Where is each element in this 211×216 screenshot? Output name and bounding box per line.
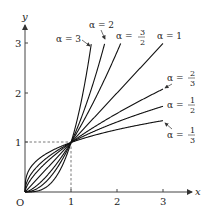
svg-text:α = 1: α = 1	[157, 31, 182, 41]
label-alpha-2-3: α = 2 3	[167, 69, 195, 88]
svg-text:2: 2	[190, 106, 195, 115]
svg-text:3: 3	[190, 79, 195, 88]
svg-text:3: 3	[190, 136, 195, 145]
label-alpha-1-3: α = 1 3	[167, 126, 195, 145]
x-tick-1: 1	[68, 196, 74, 207]
svg-text:1: 1	[190, 126, 195, 135]
y-tick-3: 3	[15, 38, 21, 49]
pointer-alpha-3	[82, 40, 90, 46]
svg-text:α = 2: α = 2	[89, 20, 114, 30]
svg-text:1: 1	[190, 96, 195, 105]
y-axis-label: y	[21, 11, 28, 22]
pointer-alpha-1-3	[165, 123, 172, 129]
label-alpha-2: α = 2	[89, 20, 114, 30]
label-alpha-1-2: α = 1 2	[167, 96, 195, 115]
curve-series-3	[25, 44, 163, 193]
svg-text:3: 3	[140, 28, 145, 37]
svg-text:α =: α =	[167, 73, 183, 83]
x-axis-label: x	[195, 186, 201, 197]
curve-series-1	[25, 44, 105, 192]
pointer-alpha-2-3	[165, 84, 172, 88]
curves	[25, 44, 163, 193]
svg-text:2: 2	[140, 38, 145, 47]
power-function-chart: y x O 1 2 3 1 2 3 α = 3 α = 2 α = 3 2 α …	[0, 0, 211, 216]
label-alpha-3: α = 3	[56, 34, 81, 44]
svg-text:α =: α =	[167, 130, 183, 140]
label-alpha-1: α = 1	[157, 31, 182, 41]
y-tick-2: 2	[15, 88, 21, 99]
svg-text:α =: α =	[167, 100, 183, 110]
y-tick-1: 1	[15, 137, 21, 148]
origin-label: O	[16, 197, 24, 208]
curve-series-5	[25, 106, 163, 192]
svg-text:α =: α =	[116, 31, 132, 41]
x-tick-2: 2	[114, 196, 120, 207]
svg-text:2: 2	[190, 69, 195, 78]
x-tick-3: 3	[160, 196, 166, 207]
svg-text:α = 3: α = 3	[56, 34, 81, 44]
pointer-alpha-2	[101, 30, 105, 39]
